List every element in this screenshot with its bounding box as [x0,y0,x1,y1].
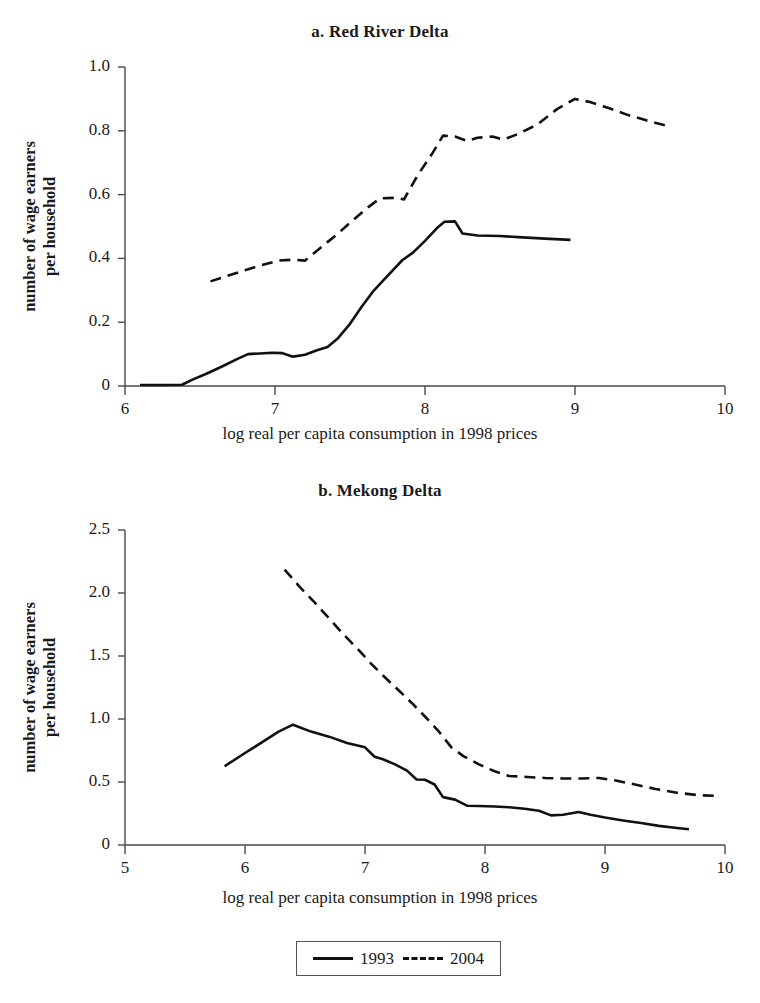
y-axis-label-line-1: number of wage earners [20,530,40,845]
figure-wage-earners-by-consumption: a. Red River Delta 00.20.40.60.81.067891… [0,0,760,1003]
y-axis-label: number of wage earnersper household [20,67,60,386]
legend-entry-1993: 1993 [313,949,394,969]
series-line-2004 [211,99,669,281]
chart-panel-mekong-delta: b. Mekong Delta 00.51.01.52.02.55678910n… [0,460,760,920]
x-tick-label: 10 [695,399,755,419]
x-axis-label: log real per capita consumption in 1998 … [0,888,760,908]
x-tick-label: 6 [215,858,275,878]
y-axis-label-line-2: per household [40,67,60,386]
series-line-2004 [285,570,716,796]
x-tick-label: 7 [335,858,395,878]
legend-entry-2004: 2004 [403,949,484,969]
y-axis-label: number of wage earnersper household [20,530,60,845]
panel-b-plot-area [0,460,760,920]
x-tick-label: 8 [455,858,515,878]
x-tick-label: 8 [395,399,455,419]
chart-legend: 1993 2004 [296,941,501,976]
legend-label-2004: 2004 [450,949,484,969]
x-tick-label: 6 [95,399,155,419]
x-tick-label: 9 [575,858,635,878]
y-axis-label-line-1: number of wage earners [20,67,40,386]
y-axis-label-line-2: per household [40,530,60,845]
chart-panel-red-river-delta: a. Red River Delta 00.20.40.60.81.067891… [0,0,760,460]
panel-a-plot-area [0,0,760,460]
x-tick-label: 9 [545,399,605,419]
solid-line-icon [313,957,353,960]
x-tick-label: 5 [95,858,155,878]
x-tick-label: 7 [245,399,305,419]
legend-label-1993: 1993 [360,949,394,969]
dashed-line-icon [403,957,443,960]
x-axis-label: log real per capita consumption in 1998 … [0,424,760,444]
series-line-1993 [225,725,689,830]
x-tick-label: 10 [695,858,755,878]
series-line-1993 [140,221,571,385]
